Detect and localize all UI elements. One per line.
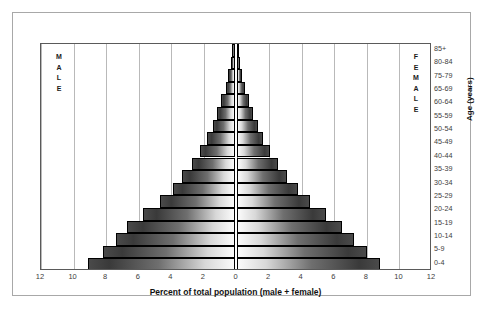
bar-male <box>221 94 234 107</box>
bar-row <box>41 258 430 270</box>
bar-female <box>237 258 380 270</box>
bar-female <box>237 44 240 57</box>
bar-row <box>41 158 430 171</box>
x-tick-label: 4 <box>290 272 312 281</box>
x-tick-label: 4 <box>159 272 181 281</box>
bar-female <box>237 246 367 259</box>
bar-row <box>41 57 430 70</box>
y-tick-label: 50-54 <box>434 124 468 133</box>
bar-row <box>41 170 430 183</box>
bar-row <box>41 107 430 120</box>
x-tick-label: 12 <box>29 272 51 281</box>
bar-female <box>237 221 343 234</box>
bar-row <box>41 145 430 158</box>
female-panel-label: FEMALE <box>410 52 422 115</box>
x-axis-ticks: 12108642024681012 <box>40 272 431 284</box>
bar-male <box>192 158 234 171</box>
bar-male <box>160 195 235 208</box>
bar-male <box>116 233 235 246</box>
y-tick-label: 75-79 <box>434 71 468 80</box>
y-tick-label: 0-4 <box>434 258 468 267</box>
x-tick-label: 2 <box>257 272 279 281</box>
bar-female <box>237 145 270 158</box>
y-tick-label: 45-49 <box>434 137 468 146</box>
bar-rows <box>41 44 430 269</box>
x-tick-label: 8 <box>355 272 377 281</box>
x-tick-label: 2 <box>192 272 214 281</box>
bar-row <box>41 246 430 259</box>
y-axis-tick-labels: 85+80-8475-7965-6960-6455-5950-5445-4940… <box>434 43 468 270</box>
bar-female <box>237 208 327 221</box>
bar-male <box>213 120 235 133</box>
x-tick-label: 6 <box>127 272 149 281</box>
bar-row <box>41 120 430 133</box>
y-tick-label: 40-44 <box>434 151 468 160</box>
bar-male <box>173 183 235 196</box>
bar-male <box>103 246 235 259</box>
bar-male <box>232 44 235 57</box>
x-tick-label: 0 <box>225 272 247 281</box>
bar-row <box>41 44 430 57</box>
male-label-letter: M <box>53 52 65 63</box>
y-tick-label: 65-69 <box>434 84 468 93</box>
y-tick-label: 30-34 <box>434 178 468 187</box>
y-tick-label: 55-59 <box>434 111 468 120</box>
bar-row <box>41 132 430 145</box>
x-tick-label: 6 <box>322 272 344 281</box>
male-label-letter: A <box>53 63 65 74</box>
y-tick-label: 60-64 <box>434 97 468 106</box>
bar-row <box>41 69 430 82</box>
y-tick-label: 20-24 <box>434 204 468 213</box>
bar-female <box>237 120 258 133</box>
bar-female <box>237 183 298 196</box>
bar-row <box>41 183 430 196</box>
bar-female <box>237 82 245 95</box>
x-axis-title: Percent of total population (male + fema… <box>40 287 431 297</box>
chart-frame: MALE FEMALE 12108642024681012 Percent of… <box>12 12 471 296</box>
female-label-letter: M <box>410 73 422 84</box>
female-label-letter: E <box>410 105 422 116</box>
bar-female <box>237 69 243 82</box>
bar-row <box>41 233 430 246</box>
bar-male <box>143 208 234 221</box>
bar-male <box>226 82 235 95</box>
female-label-letter: L <box>410 94 422 105</box>
bar-male <box>231 57 235 70</box>
female-label-letter: F <box>410 52 422 63</box>
bar-female <box>237 94 250 107</box>
female-label-letter: A <box>410 84 422 95</box>
y-axis-title: Age (years) <box>465 41 474 121</box>
male-panel-label: MALE <box>53 52 65 94</box>
y-tick-label: 5-9 <box>434 244 468 253</box>
bar-row <box>41 82 430 95</box>
bar-row <box>41 221 430 234</box>
bar-male <box>228 69 234 82</box>
bar-female <box>237 57 240 70</box>
male-label-letter: L <box>53 73 65 84</box>
y-tick-label: 15-19 <box>434 218 468 227</box>
bar-female <box>237 195 310 208</box>
population-pyramid-plot: MALE FEMALE <box>40 43 431 270</box>
bar-male <box>200 145 234 158</box>
bar-row <box>41 208 430 221</box>
bar-male <box>182 170 234 183</box>
x-tick-label: 10 <box>387 272 409 281</box>
x-tick-label: 12 <box>420 272 442 281</box>
y-tick-label: 85+ <box>434 44 468 53</box>
x-tick-label: 8 <box>94 272 116 281</box>
x-tick-label: 10 <box>62 272 84 281</box>
bar-female <box>237 107 253 120</box>
bar-female <box>237 170 288 183</box>
bar-female <box>237 132 264 145</box>
y-tick-label: 80-84 <box>434 57 468 66</box>
male-label-letter: E <box>53 84 65 95</box>
bar-male <box>217 107 234 120</box>
bar-female <box>237 158 279 171</box>
y-tick-label: 10-14 <box>434 231 468 240</box>
bar-row <box>41 195 430 208</box>
bar-male <box>127 221 235 234</box>
bar-male <box>88 258 235 270</box>
y-tick-label: 25-29 <box>434 191 468 200</box>
bar-male <box>207 132 235 145</box>
bar-row <box>41 94 430 107</box>
